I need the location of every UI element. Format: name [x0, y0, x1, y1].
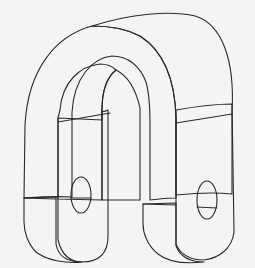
- clevis-drawing: [0, 0, 255, 268]
- right-pin-hole: [197, 181, 217, 219]
- seam-right-top: [176, 114, 232, 123]
- left-pin-hole: [71, 177, 91, 213]
- right-leg-bottom-band: [143, 203, 204, 263]
- outer-curved-face: [24, 26, 176, 200]
- right-leg-face: [176, 104, 234, 260]
- top-band-shaded: [92, 13, 232, 195]
- right-pin-hole-seam: [197, 207, 217, 208]
- inner-curved-face: [58, 64, 116, 200]
- seam-left-bottom: [24, 198, 56, 199]
- figure-canvas: [0, 0, 255, 268]
- seam-right-bottom: [143, 204, 176, 205]
- left-leg-face: [58, 110, 108, 262]
